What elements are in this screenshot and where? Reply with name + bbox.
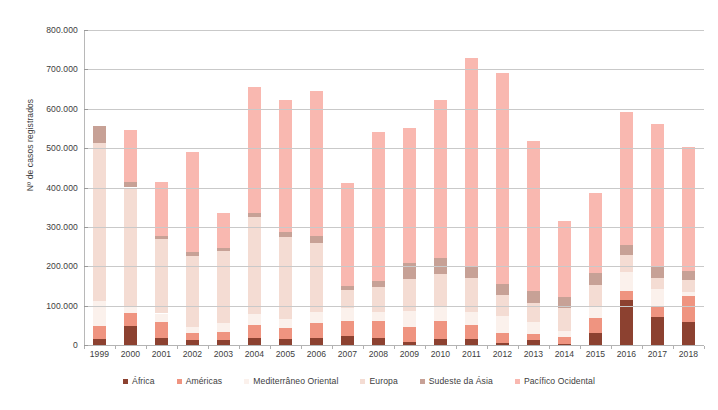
- bar-segment[interactable]: [186, 327, 199, 333]
- bar-segment[interactable]: [620, 255, 633, 272]
- legend-item[interactable]: Europa: [360, 376, 397, 386]
- legend-item[interactable]: Mediterrâneo Oriental: [244, 376, 338, 386]
- bar-segment[interactable]: [248, 325, 261, 339]
- bar-segment[interactable]: [558, 221, 571, 297]
- bar-segment[interactable]: [527, 141, 540, 291]
- bar-segment[interactable]: [651, 289, 664, 306]
- bar-segment[interactable]: [558, 337, 571, 344]
- bar-segment[interactable]: [465, 325, 478, 340]
- bar-segment[interactable]: [403, 311, 416, 327]
- bar-segment[interactable]: [434, 321, 447, 339]
- bar-segment[interactable]: [651, 266, 664, 279]
- bar-segment[interactable]: [155, 236, 168, 240]
- bar-segment[interactable]: [496, 284, 509, 295]
- bar-segment[interactable]: [372, 338, 385, 345]
- bar-segment[interactable]: [589, 193, 602, 272]
- legend-item[interactable]: Sudeste da Ásia: [420, 376, 493, 386]
- bar-segment[interactable]: [682, 292, 695, 296]
- bar-segment[interactable]: [310, 338, 323, 345]
- bar-segment[interactable]: [310, 243, 323, 312]
- bar-segment[interactable]: [589, 285, 602, 306]
- bar-segment[interactable]: [589, 318, 602, 333]
- bar-segment[interactable]: [434, 100, 447, 258]
- bar-segment[interactable]: [620, 245, 633, 255]
- bar-segment[interactable]: [372, 132, 385, 282]
- bar-segment[interactable]: [248, 338, 261, 345]
- bar-segment[interactable]: [279, 237, 292, 319]
- bar-segment[interactable]: [124, 130, 137, 182]
- bar-segment[interactable]: [124, 306, 137, 313]
- bar-segment[interactable]: [155, 338, 168, 345]
- bar-segment[interactable]: [186, 152, 199, 252]
- bar-segment[interactable]: [341, 308, 354, 321]
- bar-segment[interactable]: [620, 291, 633, 299]
- bar-segment[interactable]: [620, 112, 633, 246]
- bar-segment[interactable]: [372, 281, 385, 287]
- bar-segment[interactable]: [620, 272, 633, 291]
- bar-segment[interactable]: [372, 321, 385, 339]
- bar-segment[interactable]: [465, 58, 478, 267]
- bar-segment[interactable]: [217, 323, 230, 332]
- bar-segment[interactable]: [527, 322, 540, 334]
- bar-segment[interactable]: [372, 287, 385, 312]
- bar-segment[interactable]: [155, 322, 168, 338]
- bar-segment[interactable]: [558, 331, 571, 337]
- bar-segment[interactable]: [279, 100, 292, 232]
- bar-segment[interactable]: [527, 334, 540, 340]
- bar-segment[interactable]: [589, 273, 602, 285]
- bar-segment[interactable]: [558, 308, 571, 331]
- bar-segment[interactable]: [682, 322, 695, 345]
- bar-segment[interactable]: [279, 319, 292, 327]
- bar-segment[interactable]: [434, 307, 447, 321]
- bar-segment[interactable]: [682, 280, 695, 291]
- bar-segment[interactable]: [186, 252, 199, 256]
- bar-segment[interactable]: [248, 314, 261, 324]
- bar-segment[interactable]: [496, 316, 509, 333]
- legend-item[interactable]: Américas: [177, 376, 223, 386]
- bar-segment[interactable]: [217, 248, 230, 251]
- bar-segment[interactable]: [217, 332, 230, 340]
- bar-segment[interactable]: [248, 87, 261, 213]
- bar-segment[interactable]: [651, 278, 664, 289]
- bar-segment[interactable]: [341, 321, 354, 336]
- bar-segment[interactable]: [496, 73, 509, 284]
- bar-segment[interactable]: [124, 326, 137, 345]
- bar-segment[interactable]: [279, 232, 292, 237]
- bar-segment[interactable]: [403, 327, 416, 342]
- bar-segment[interactable]: [279, 328, 292, 339]
- legend-item[interactable]: Pacífico Ocidental: [515, 376, 595, 386]
- bar-segment[interactable]: [124, 313, 137, 326]
- bar-segment[interactable]: [124, 188, 137, 307]
- bar-segment[interactable]: [186, 333, 199, 340]
- bar-segment[interactable]: [93, 126, 106, 144]
- bar-segment[interactable]: [310, 236, 323, 243]
- bar-segment[interactable]: [310, 323, 323, 338]
- bar-segment[interactable]: [465, 312, 478, 325]
- bar-segment[interactable]: [310, 312, 323, 324]
- bar-segment[interactable]: [372, 312, 385, 321]
- bar-segment[interactable]: [651, 306, 664, 317]
- bar-segment[interactable]: [217, 213, 230, 248]
- bar-segment[interactable]: [589, 333, 602, 345]
- bar-segment[interactable]: [217, 251, 230, 323]
- bar-segment[interactable]: [682, 271, 695, 280]
- bar-segment[interactable]: [589, 306, 602, 319]
- bar-segment[interactable]: [341, 336, 354, 345]
- bar-segment[interactable]: [465, 266, 478, 277]
- bar-segment[interactable]: [155, 239, 168, 313]
- bar-segment[interactable]: [651, 124, 664, 266]
- bar-segment[interactable]: [341, 286, 354, 290]
- bar-segment[interactable]: [434, 274, 447, 307]
- bar-segment[interactable]: [310, 91, 323, 236]
- bar-segment[interactable]: [651, 317, 664, 345]
- bar-segment[interactable]: [682, 296, 695, 322]
- legend-item[interactable]: África: [123, 376, 155, 386]
- bar-segment[interactable]: [682, 147, 695, 271]
- bar-segment[interactable]: [527, 291, 540, 304]
- bar-segment[interactable]: [93, 326, 106, 339]
- bar-segment[interactable]: [496, 333, 509, 343]
- bar-segment[interactable]: [248, 213, 261, 218]
- bar-segment[interactable]: [341, 183, 354, 286]
- bar-segment[interactable]: [93, 143, 106, 301]
- bar-segment[interactable]: [155, 314, 168, 323]
